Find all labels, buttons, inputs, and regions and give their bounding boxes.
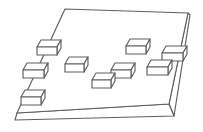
block-top-left-front-face <box>37 47 57 55</box>
block-left-edge <box>23 63 48 78</box>
block-left-edge-front-face <box>23 70 44 78</box>
block-bottom-left <box>21 90 45 105</box>
block-center-left <box>65 57 88 72</box>
block-center <box>92 73 115 88</box>
block-right-front-face <box>147 67 168 75</box>
block-top-right-front-face <box>126 46 146 54</box>
sketch-canvas <box>0 0 203 132</box>
block-center-front-face <box>92 80 111 88</box>
block-bottom-left-front-face <box>21 97 41 105</box>
block-top-left <box>37 40 61 55</box>
block-far-right-edge <box>162 46 187 61</box>
plate-sketch-svg <box>0 0 203 132</box>
block-center-left-front-face <box>65 64 84 72</box>
block-right <box>147 60 172 75</box>
block-top-right <box>126 39 150 54</box>
